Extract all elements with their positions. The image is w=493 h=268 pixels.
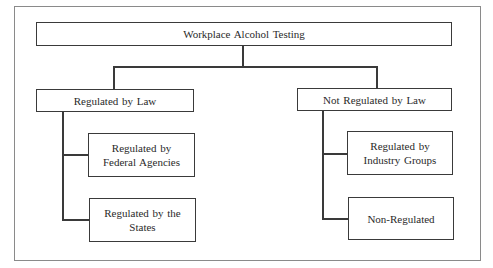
child-node-label: Non-Regulated bbox=[367, 212, 434, 226]
child-node-label: Regulated by the States bbox=[104, 206, 181, 234]
child-node-label: Regulated by Industry Groups bbox=[364, 139, 437, 167]
left-child-2-connector bbox=[62, 219, 89, 221]
child-node-label: Regulated by Federal Agencies bbox=[103, 141, 180, 169]
right-branch-connector bbox=[376, 66, 378, 89]
root-connector-vertical bbox=[242, 45, 244, 67]
branch-node-not-regulated-by-law: Not Regulated by Law bbox=[297, 88, 452, 111]
branch-node-regulated-by-law: Regulated by Law bbox=[36, 89, 194, 112]
left-child-1-connector bbox=[62, 154, 89, 156]
branch-connector-horizontal bbox=[113, 66, 377, 68]
left-children-trunk bbox=[62, 111, 64, 220]
root-node-box: Workplace Alcohol Testing bbox=[36, 22, 452, 46]
child-node-non-regulated: Non-Regulated bbox=[348, 197, 454, 240]
branch-node-label: Not Regulated by Law bbox=[323, 93, 426, 107]
left-branch-connector bbox=[113, 66, 115, 90]
child-node-states: Regulated by the States bbox=[89, 198, 196, 242]
child-node-industry-groups: Regulated by Industry Groups bbox=[347, 131, 453, 175]
branch-node-label: Regulated by Law bbox=[74, 94, 157, 108]
right-child-2-connector bbox=[322, 218, 348, 220]
child-node-federal-agencies: Regulated by Federal Agencies bbox=[88, 133, 195, 177]
right-children-trunk bbox=[322, 110, 324, 219]
right-child-1-connector bbox=[322, 153, 348, 155]
root-node-label: Workplace Alcohol Testing bbox=[183, 27, 305, 41]
